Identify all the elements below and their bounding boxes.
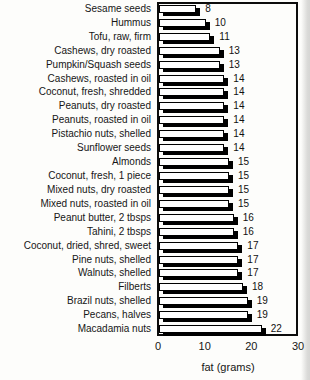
value-label: 14 bbox=[233, 87, 244, 97]
category-label: Coconut, fresh, 1 piece bbox=[0, 171, 157, 181]
value-label: 14 bbox=[233, 115, 244, 125]
bar bbox=[159, 5, 196, 13]
bar bbox=[159, 186, 229, 194]
value-label: 10 bbox=[215, 18, 226, 28]
bar bbox=[159, 200, 229, 208]
x-axis-title: fat (grams) bbox=[158, 361, 298, 373]
bar-row: Tofu, raw, firm11 bbox=[0, 30, 306, 44]
category-label: Macadamia nuts bbox=[0, 324, 157, 334]
value-label: 14 bbox=[233, 101, 244, 111]
category-label: Cashews, roasted in oil bbox=[0, 74, 157, 84]
value-label: 19 bbox=[257, 310, 268, 320]
bar-row: Hummus10 bbox=[0, 16, 306, 30]
bar-row: Filberts18 bbox=[0, 280, 306, 294]
value-label: 17 bbox=[247, 241, 258, 251]
bar-row: Sesame seeds8 bbox=[0, 2, 306, 16]
value-label: 17 bbox=[247, 268, 258, 278]
category-label: Mixed nuts, dry roasted bbox=[0, 185, 157, 195]
bar bbox=[159, 116, 224, 124]
x-axis-tick-label: 30 bbox=[292, 341, 304, 352]
bar bbox=[159, 130, 224, 138]
category-label: Coconut, dried, shred, sweet bbox=[0, 241, 157, 251]
bar-row: Coconut, fresh, 1 piece15 bbox=[0, 169, 306, 183]
bar-row: Pine nuts, shelled17 bbox=[0, 253, 306, 267]
bar bbox=[159, 75, 224, 83]
bar-row: Cashews, dry roasted13 bbox=[0, 44, 306, 58]
bar bbox=[159, 33, 210, 41]
category-label: Mixed nuts, roasted in oil bbox=[0, 199, 157, 209]
bar-row: Pecans, halves19 bbox=[0, 308, 306, 322]
bar-rows-container: Sesame seeds8Hummus10Tofu, raw, firm11Ca… bbox=[0, 2, 306, 336]
category-label: Filberts bbox=[0, 282, 157, 292]
bar bbox=[159, 228, 234, 236]
bar-row: Sunflower seeds14 bbox=[0, 141, 306, 155]
x-axis-ticks: 0102030 bbox=[0, 341, 310, 355]
value-label: 13 bbox=[229, 60, 240, 70]
bar bbox=[159, 172, 229, 180]
bar bbox=[159, 102, 224, 110]
value-label: 15 bbox=[238, 157, 249, 167]
category-label: Walnuts, shelled bbox=[0, 268, 157, 278]
value-label: 16 bbox=[243, 213, 254, 223]
bar-row: Mixed nuts, roasted in oil15 bbox=[0, 197, 306, 211]
category-label: Sesame seeds bbox=[0, 4, 157, 14]
category-label: Pistachio nuts, shelled bbox=[0, 129, 157, 139]
bar-row: Peanuts, dry roasted14 bbox=[0, 99, 306, 113]
value-label: 15 bbox=[238, 171, 249, 181]
bar-row: Pistachio nuts, shelled14 bbox=[0, 127, 306, 141]
value-label: 8 bbox=[205, 4, 211, 14]
bar bbox=[159, 47, 220, 55]
bar-row: Coconut, dried, shred, sweet17 bbox=[0, 239, 306, 253]
bar bbox=[159, 88, 224, 96]
x-axis-tick-label: 10 bbox=[199, 341, 211, 352]
bar bbox=[159, 269, 238, 277]
bar bbox=[159, 283, 243, 291]
bar-row: Peanuts, roasted in oil14 bbox=[0, 113, 306, 127]
bar bbox=[159, 214, 234, 222]
bar-row: Tahini, 2 tbsps16 bbox=[0, 225, 306, 239]
category-label: Almonds bbox=[0, 157, 157, 167]
category-label: Sunflower seeds bbox=[0, 143, 157, 153]
bar-row: Peanut butter, 2 tbsps16 bbox=[0, 211, 306, 225]
bar bbox=[159, 19, 206, 27]
value-label: 15 bbox=[238, 199, 249, 209]
category-label: Tofu, raw, firm bbox=[0, 32, 157, 42]
bar bbox=[159, 256, 238, 264]
bar bbox=[159, 61, 220, 69]
category-label: Peanut butter, 2 tbsps bbox=[0, 213, 157, 223]
category-label: Coconut, fresh, shredded bbox=[0, 87, 157, 97]
x-axis-tick-label: 0 bbox=[155, 341, 161, 352]
category-label: Peanuts, roasted in oil bbox=[0, 115, 157, 125]
x-axis-tick-label: 20 bbox=[245, 341, 257, 352]
value-label: 18 bbox=[252, 282, 263, 292]
value-label: 15 bbox=[238, 185, 249, 195]
bar bbox=[159, 311, 248, 319]
bar-row: Coconut, fresh, shredded14 bbox=[0, 86, 306, 100]
category-label: Peanuts, dry roasted bbox=[0, 101, 157, 111]
category-label: Hummus bbox=[0, 18, 157, 28]
value-label: 14 bbox=[233, 74, 244, 84]
category-label: Pumpkin/Squash seeds bbox=[0, 60, 157, 70]
value-label: 22 bbox=[271, 324, 282, 334]
bar-row: Walnuts, shelled17 bbox=[0, 267, 306, 281]
bar-row: Pumpkin/Squash seeds13 bbox=[0, 58, 306, 72]
category-label: Pine nuts, shelled bbox=[0, 255, 157, 265]
fat-content-bar-chart: Sesame seeds8Hummus10Tofu, raw, firm11Ca… bbox=[0, 0, 310, 380]
bar bbox=[159, 242, 238, 250]
bar-row: Almonds15 bbox=[0, 155, 306, 169]
value-label: 14 bbox=[233, 129, 244, 139]
category-label: Cashews, dry roasted bbox=[0, 46, 157, 56]
bar bbox=[159, 325, 262, 333]
bar-row: Brazil nuts, shelled19 bbox=[0, 294, 306, 308]
category-label: Tahini, 2 tbsps bbox=[0, 227, 157, 237]
bar bbox=[159, 297, 248, 305]
bar-row: Mixed nuts, dry roasted15 bbox=[0, 183, 306, 197]
value-label: 11 bbox=[219, 32, 229, 42]
value-label: 19 bbox=[257, 296, 268, 306]
category-label: Pecans, halves bbox=[0, 310, 157, 320]
bar-row: Macadamia nuts22 bbox=[0, 322, 306, 336]
value-label: 13 bbox=[229, 46, 240, 56]
value-label: 16 bbox=[243, 227, 254, 237]
category-label: Brazil nuts, shelled bbox=[0, 296, 157, 306]
value-label: 14 bbox=[233, 143, 244, 153]
